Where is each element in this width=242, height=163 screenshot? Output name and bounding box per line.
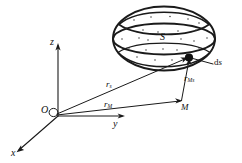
figure-canvas: z y x O S M ds rs rM rMs	[0, 0, 242, 163]
ds-surface-element-dot	[185, 53, 193, 61]
vector-rM-subscript: M	[108, 103, 113, 109]
field-point-label-M: M	[181, 103, 189, 112]
axis-label-x: x	[11, 148, 15, 158]
origin-marker	[49, 108, 58, 116]
origin-label-O: O	[41, 105, 48, 115]
ds-element-label: ds	[214, 58, 222, 67]
x-axis-line	[19, 116, 58, 150]
surface-label-S: S	[160, 32, 165, 42]
axis-label-y: y	[113, 119, 117, 129]
ds-label-s: s	[219, 57, 223, 67]
axis-label-z: z	[50, 37, 54, 47]
vector-rs-subscript: s	[110, 83, 112, 89]
vector-label-rMs: rMs	[184, 74, 194, 84]
vector-rMs-subscript: Ms	[188, 77, 195, 83]
axes-group	[19, 46, 122, 150]
diagram-svg	[0, 0, 242, 163]
vector-rM-line	[57, 101, 180, 115]
vector-rs-line	[57, 59, 186, 115]
vector-label-rM: rM	[104, 100, 112, 110]
axis-arrowheads	[17, 43, 126, 152]
vector-label-rs: rs	[106, 80, 112, 90]
